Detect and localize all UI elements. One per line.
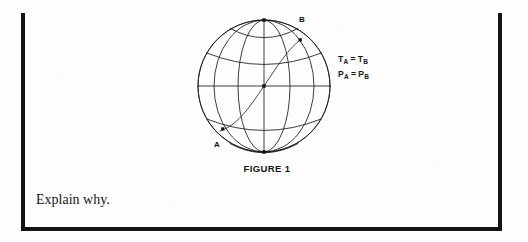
eq1-lhs-symbol: T (338, 54, 344, 64)
point-label-b: B (299, 15, 305, 24)
dot-point-b (299, 38, 302, 41)
point-label-a: A (214, 140, 220, 149)
eq1-rhs-subscript: B (363, 58, 368, 65)
eq1-lhs-subscript: A (344, 58, 349, 65)
eq2-rhs-subscript: B (364, 73, 369, 80)
equation-block: TA=TB PA=PB (338, 52, 398, 82)
eq1-operator: = (349, 54, 358, 64)
figure-globe (196, 14, 336, 184)
dot-point-a (221, 127, 224, 130)
dot-sphere-center (262, 84, 265, 87)
dot-south-pole (262, 150, 265, 153)
page-rule-right (498, 13, 502, 231)
great-circle-arc-AB (220, 40, 300, 131)
equation-pressure: PA=PB (338, 67, 398, 82)
figure-caption: FIGURE 1 (232, 163, 302, 174)
body-text-explain-why: Explain why. (36, 192, 110, 208)
page-rule-bottom (21, 227, 502, 231)
equation-temperature: TA=TB (338, 52, 398, 67)
page-rule-left (21, 13, 25, 231)
eq2-operator: = (349, 69, 358, 79)
dot-north-pole (262, 18, 265, 21)
scanned-page: B A TA=TB PA=PB FIGURE 1 Explain why. (0, 0, 528, 242)
eq2-lhs-subscript: A (344, 73, 349, 80)
globe-diagram (196, 14, 336, 184)
